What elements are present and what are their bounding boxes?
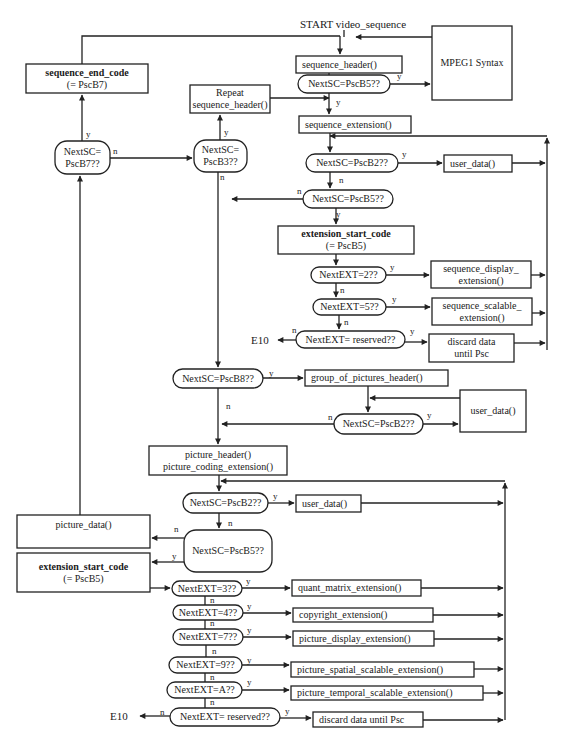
branch-yes-label: y bbox=[172, 551, 177, 561]
decision-dec-gop-b2: NextSC=PscB2?? bbox=[334, 414, 423, 434]
process-sequence-display-extension: sequence_display_extension() bbox=[431, 261, 531, 288]
branch-no-label: n bbox=[226, 401, 231, 411]
process-picture-data: picture_data() bbox=[17, 515, 150, 548]
nodes: sequence_header()MPEG1 SyntaxNextSC=PscB… bbox=[17, 26, 532, 727]
decision-dec-pic-reserved: NextEXT= reserved?? bbox=[170, 708, 280, 726]
node-text: picture_display_extension() bbox=[299, 633, 411, 645]
process-picture-header: picture_header()picture_coding_extension… bbox=[149, 446, 287, 475]
node-text: sequence_header() bbox=[193, 99, 268, 111]
node-text: PscB7?? bbox=[65, 158, 100, 169]
node-text: picture_spatial_scalable_extension() bbox=[297, 664, 443, 676]
node-text: quant_matrix_extension() bbox=[298, 582, 401, 594]
node-text: NextSC=PscB2?? bbox=[316, 157, 388, 168]
process-picture-temporal-scalable-extension: picture_temporal_scalable_extension() bbox=[291, 686, 483, 700]
process-sequence-extension: sequence_extension() bbox=[299, 116, 411, 133]
node-text: extension_start_code bbox=[39, 561, 129, 572]
node-text: NextEXT= reserved?? bbox=[180, 711, 270, 722]
node-text: PscB3?? bbox=[203, 156, 238, 167]
node-text: NextSC=PscB5?? bbox=[308, 78, 380, 89]
node-text: sequence_header() bbox=[302, 59, 377, 71]
process-quant-matrix-extension: quant_matrix_extension() bbox=[292, 580, 421, 596]
branch-no-label: n bbox=[292, 325, 297, 335]
node-text: sequence_display_ bbox=[443, 263, 520, 274]
node-text: NextSC=PscB5?? bbox=[312, 193, 384, 204]
branch-yes-label: y bbox=[402, 149, 407, 159]
node-text: NextSC=PscB2?? bbox=[343, 418, 415, 429]
process-seq-user-data: user_data() bbox=[444, 155, 512, 172]
branch-yes-label: y bbox=[86, 129, 91, 139]
branch-yes-label: y bbox=[247, 655, 252, 665]
branch-yes-label: y bbox=[246, 576, 251, 586]
node-text: picture_header() bbox=[185, 449, 251, 461]
branch-no-label: n bbox=[344, 317, 349, 327]
node-text: user_data() bbox=[302, 498, 347, 510]
node-text: user_data() bbox=[450, 158, 495, 170]
decision-dec-seq-b5b: NextSC=PscB5?? bbox=[303, 190, 393, 208]
node-text: NextEXT=2?? bbox=[319, 269, 378, 280]
node-text: MPEG1 Syntax bbox=[440, 57, 503, 68]
process-group-of-pictures-header: group_of_pictures_header() bbox=[305, 370, 448, 386]
node-text: user_data() bbox=[471, 405, 516, 417]
node-text: until Psc bbox=[454, 348, 489, 359]
branch-yes-label: y bbox=[247, 601, 252, 611]
node-text: NextEXT=A?? bbox=[174, 684, 235, 695]
node-text: sequence_scalable_ bbox=[443, 300, 523, 311]
node-text: NextSC= bbox=[202, 144, 240, 155]
branch-no-label: n bbox=[160, 707, 165, 717]
mpeg2-syntax-flowchart: START video_sequence E10 E10 sequence_he… bbox=[0, 0, 567, 742]
branch-yes-label: y bbox=[224, 127, 229, 137]
node-text: picture_data() bbox=[55, 519, 111, 531]
node-text: Repeat bbox=[216, 87, 244, 98]
decision-dec-ext-5: NextEXT=5?? bbox=[313, 299, 386, 315]
node-text: discard data bbox=[447, 336, 496, 347]
node-text: picture_temporal_scalable_extension() bbox=[297, 687, 453, 699]
branch-no-label: n bbox=[340, 285, 345, 295]
node-text: sequence_end_code bbox=[45, 67, 129, 78]
decision-dec-seq-b5: NextSC=PscB5?? bbox=[298, 75, 390, 93]
branch-no-label: n bbox=[212, 646, 217, 656]
branch-no-label: n bbox=[328, 412, 333, 422]
node-text: (= PscB7) bbox=[67, 79, 107, 91]
branch-yes-label: y bbox=[392, 294, 397, 304]
decision-dec-pic-b5: NextSC=PscB5?? bbox=[184, 530, 272, 572]
process-sequence-end-code: sequence_end_code(= PscB7) bbox=[26, 64, 148, 93]
branch-no-label: n bbox=[228, 518, 233, 528]
start-label: START video_sequence bbox=[300, 18, 406, 30]
decision-dec-ext-7: NextEXT=7?? bbox=[173, 629, 243, 645]
process-seq-discard: discard datauntil Psc bbox=[429, 334, 514, 362]
node-text: NextEXT= reserved?? bbox=[306, 334, 396, 345]
process-repeat-sequence-header: Repeatsequence_header() bbox=[190, 85, 270, 113]
branch-no-label: n bbox=[113, 146, 118, 156]
decision-dec-b7: NextSC=PscB7?? bbox=[55, 141, 110, 174]
decision-dec-b8: NextSC=PscB8?? bbox=[173, 369, 263, 388]
decision-dec-ext-a: NextEXT=A?? bbox=[167, 682, 242, 698]
node-text: NextEXT=5?? bbox=[320, 301, 379, 312]
decision-dec-ext-4: NextEXT=4?? bbox=[173, 605, 243, 620]
branch-yes-label: y bbox=[247, 625, 252, 635]
branch-no-label: n bbox=[339, 175, 344, 185]
process-copyright-extension: copyright_extension() bbox=[293, 608, 433, 622]
node-text: extension() bbox=[459, 275, 504, 287]
branch-yes-label: y bbox=[410, 326, 415, 336]
branch-yes-label: y bbox=[336, 97, 341, 107]
process-picture-spatial-scalable-extension: picture_spatial_scalable_extension() bbox=[291, 662, 474, 677]
branch-no-label: n bbox=[210, 672, 215, 682]
decision-dec-ext-9: NextEXT=9?? bbox=[169, 657, 242, 673]
branch-no-label: n bbox=[297, 186, 302, 196]
decision-dec-ext-3: NextEXT=3?? bbox=[172, 581, 242, 596]
branch-no-label: n bbox=[210, 618, 215, 628]
decision-dec-pic-b2: NextSC=PscB2?? bbox=[183, 493, 268, 513]
process-gop-user-data: user_data() bbox=[460, 390, 526, 432]
branch-yes-label: y bbox=[269, 368, 274, 378]
node-text: NextEXT=7?? bbox=[179, 631, 238, 642]
process-pic-user-data: user_data() bbox=[296, 495, 361, 512]
node-text: discard data until Psc bbox=[319, 714, 405, 725]
decision-dec-seq-reserved: NextEXT= reserved?? bbox=[296, 331, 405, 348]
branch-yes-label: y bbox=[336, 209, 341, 219]
node-text: extension() bbox=[460, 312, 505, 324]
branch-yes-label: y bbox=[285, 706, 290, 716]
node-text: NextEXT=3?? bbox=[178, 583, 237, 594]
branch-yes-label: y bbox=[427, 410, 432, 420]
process-seq-extension-start-code: extension_start_code(= PscB5) bbox=[278, 226, 414, 254]
branch-yes-label: y bbox=[273, 491, 278, 501]
